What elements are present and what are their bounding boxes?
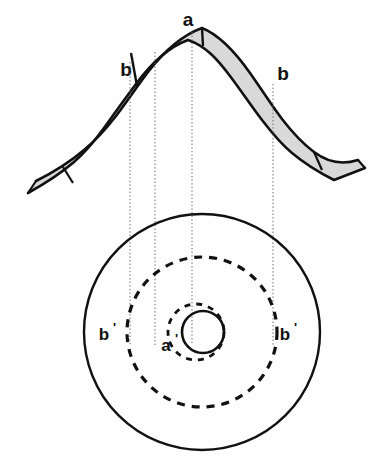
label-a-upper: a xyxy=(183,9,194,30)
right-inner-contact-tick xyxy=(202,28,203,46)
left-outer-contact-tick xyxy=(63,167,73,183)
fold-band-outer-edge xyxy=(28,40,365,193)
outcrop-map-view: b ' b ' a ' xyxy=(84,214,320,450)
label-a-prime-center: a xyxy=(161,336,171,355)
figure-root: a b b b ' b ' a ' xyxy=(0,0,384,468)
left-inner-contact-tick xyxy=(131,53,137,86)
prime-mark-b-right: ' xyxy=(294,320,297,335)
label-b-prime-left: b xyxy=(99,325,109,344)
middle-dashed-circle xyxy=(127,257,277,407)
prime-mark-a-center: ' xyxy=(175,331,178,346)
core-circle xyxy=(182,311,224,353)
label-b-right-upper: b xyxy=(277,63,289,84)
fold-structure-figure: a b b b ' b ' a ' xyxy=(0,0,384,468)
fold-cross-section: a b b xyxy=(28,9,365,193)
prime-mark-b-left: ' xyxy=(113,320,116,335)
label-b-prime-right: b xyxy=(280,325,290,344)
